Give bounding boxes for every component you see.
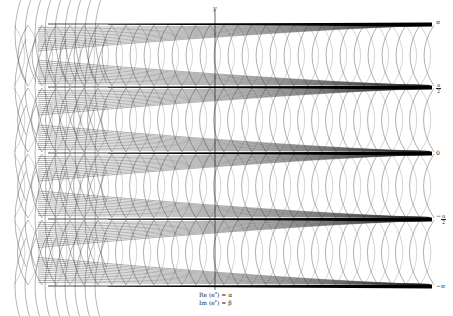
- tick-label: −π: [436, 283, 445, 289]
- tick-label: π: [436, 19, 440, 25]
- tick-label: π2: [436, 82, 441, 94]
- caption-imag-part: Im (ez) = β: [199, 298, 232, 306]
- contour-plot: [0, 0, 453, 316]
- tick-label: −π2: [436, 213, 446, 225]
- tick-label: 0: [436, 150, 440, 156]
- y-axis-label: y: [213, 4, 216, 11]
- caption-real-part: Re (ez) = α: [199, 290, 232, 298]
- convergence-band: [108, 285, 432, 289]
- convergence-band: [108, 218, 432, 222]
